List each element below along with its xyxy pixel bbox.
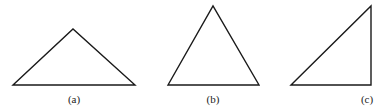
obtuse-triangle	[13, 29, 135, 85]
figure-b: (b)	[168, 6, 259, 106]
figure-a-label: (a)	[68, 93, 81, 106]
figure-c-label: (c)	[361, 93, 374, 106]
acute-triangle	[168, 6, 259, 85]
figure-c: (c)	[291, 6, 373, 106]
triangles-diagram: (a) (b) (c)	[0, 0, 382, 108]
figure-a: (a)	[13, 29, 135, 106]
figure-b-label: (b)	[207, 93, 220, 106]
right-triangle	[291, 6, 371, 85]
